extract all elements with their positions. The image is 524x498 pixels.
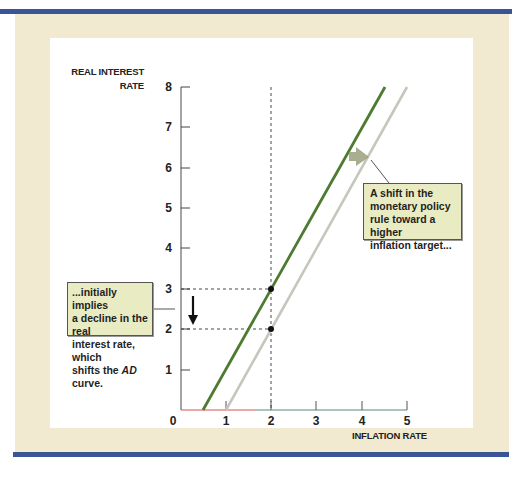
x-tick-2: 2 — [268, 414, 275, 428]
point-original-rule — [268, 286, 274, 292]
right-callout: A shift in the monetary policy rule towa… — [363, 183, 462, 240]
y-axis — [181, 87, 190, 410]
x-tick-1: 1 — [223, 414, 230, 428]
right-callout-line1: A shift in the — [370, 187, 457, 200]
y-tick-5: 5 — [165, 201, 172, 215]
x-axis-label: INFLATION RATE — [352, 430, 427, 441]
y-tick-8: 8 — [165, 80, 172, 94]
y-tick-3: 3 — [165, 282, 172, 296]
right-callout-line4: inflation target... — [370, 239, 457, 252]
y-axis-label-line2: RATE — [71, 79, 144, 93]
left-callout-line3: interest rate, which — [72, 338, 148, 364]
left-callout-line4: shifts the AD curve. — [72, 364, 148, 390]
left-callout-line1: ...initially implies — [72, 286, 148, 312]
x-tick-0: 0 — [170, 414, 177, 428]
x-axis — [181, 401, 407, 410]
shift-arrow-icon — [349, 147, 369, 166]
y-tick-2: 2 — [165, 322, 172, 336]
right-callout-connector — [371, 160, 389, 183]
down-arrow-icon — [188, 296, 198, 325]
right-callout-line2: monetary policy — [370, 200, 457, 213]
y-axis-label-line1: REAL INTEREST — [71, 65, 144, 79]
y-tick-7: 7 — [165, 120, 172, 134]
ad-term: AD — [122, 364, 137, 376]
y-tick-1: 1 — [165, 363, 172, 377]
left-callout-line2: a decline in the real — [72, 312, 148, 338]
x-tick-4: 4 — [359, 414, 366, 428]
y-tick-6: 6 — [165, 161, 172, 175]
x-tick-5: 5 — [404, 414, 411, 428]
y-tick-4: 4 — [165, 241, 172, 255]
left-callout: ...initially implies a decline in the re… — [67, 282, 153, 336]
x-tick-3: 3 — [313, 414, 320, 428]
y-axis-label: REAL INTEREST RATE — [71, 65, 144, 93]
original-policy-rule-line — [203, 87, 385, 410]
right-callout-line3: rule toward a higher — [370, 213, 457, 239]
point-new-rule — [268, 326, 274, 332]
